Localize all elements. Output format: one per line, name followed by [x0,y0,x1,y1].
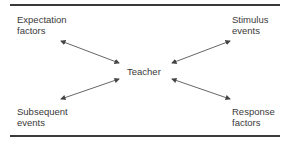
arrow-subsequent [61,79,119,99]
arrow-stimulus [172,41,230,63]
arrow-expectation [61,41,119,63]
arrow-response [172,79,230,99]
diagram: Expectation factors Stimulus events Subs… [0,0,293,146]
arrows [0,0,293,146]
